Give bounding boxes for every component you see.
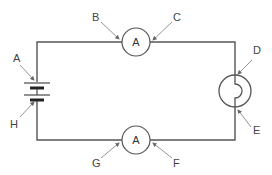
label-e: E xyxy=(253,124,260,136)
arrow-g xyxy=(101,143,119,158)
arrow-f xyxy=(153,143,172,158)
ammeter-top: A xyxy=(122,28,150,56)
bottom-left-wire xyxy=(37,101,122,140)
wires xyxy=(37,42,235,140)
circuit-diagram: A A A B C D E F G H xyxy=(0,0,272,175)
label-d: D xyxy=(253,44,261,56)
arrow-b xyxy=(101,22,119,39)
label-b: B xyxy=(92,11,99,23)
top-wire xyxy=(37,42,122,82)
label-h: H xyxy=(10,118,18,130)
label-c: C xyxy=(173,11,181,23)
arrow-a xyxy=(20,65,34,80)
arrow-e xyxy=(238,110,251,127)
arrow-c xyxy=(153,22,172,40)
bottom-right-wire xyxy=(150,107,235,140)
arrow-d xyxy=(238,60,252,74)
ammeter-bottom: A xyxy=(122,126,150,154)
ammeter-top-symbol: A xyxy=(132,36,140,48)
top-right-wire xyxy=(150,42,235,75)
ammeter-bottom-symbol: A xyxy=(132,134,140,146)
label-f: F xyxy=(173,157,180,169)
bulb-icon xyxy=(219,75,251,107)
arrow-h xyxy=(20,102,34,117)
label-g: G xyxy=(92,157,101,169)
battery-icon xyxy=(24,83,50,100)
label-a: A xyxy=(13,52,21,64)
